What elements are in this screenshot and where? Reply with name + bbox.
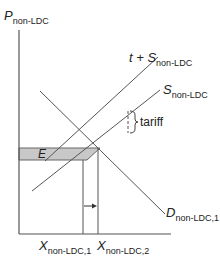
x-tick-label-2: Xnon-LDC,2 [97,239,149,252]
y-axis-label: Pnon-LDC [4,9,49,22]
shaded-area-label: E [38,148,46,160]
demand-label: Dnon-LDC,1 [166,206,219,219]
supply-curve [32,90,160,191]
x-tick-label-1: Xnon-LDC,1 [39,239,91,252]
tariff-bracket [130,111,138,133]
tariff-supply-curve [45,57,158,161]
tariff-label: tariff [140,116,163,128]
shaded-area-e [19,148,100,160]
arrow-head-icon [92,204,97,209]
tariff-diagram [0,0,220,266]
supply-label: Snon-LDC [163,83,208,96]
tariff-supply-label: t + Snon-LDC [129,51,192,64]
